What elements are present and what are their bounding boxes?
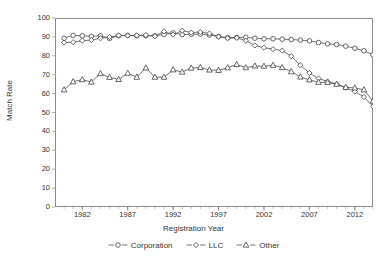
legend-marker-triangle-icon (236, 240, 256, 250)
legend-label: Corporation (131, 241, 173, 250)
legend-marker-circle-icon (108, 240, 128, 250)
legend-item-corporation[interactable]: Corporation (108, 240, 173, 250)
legend-marker-diamond-icon (186, 240, 206, 250)
legend-label: Other (259, 241, 279, 250)
legend-label: LLC (209, 241, 224, 250)
series-other (61, 61, 376, 103)
chart-series-layer (0, 0, 387, 259)
legend-item-other[interactable]: Other (236, 240, 279, 250)
chart-root: 0102030405060708090100 19821987199219972… (0, 0, 387, 259)
chart-legend: CorporationLLCOther (0, 238, 387, 252)
legend-item-llc[interactable]: LLC (186, 240, 224, 250)
